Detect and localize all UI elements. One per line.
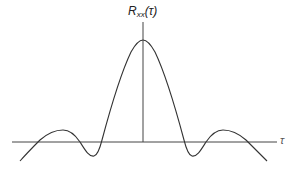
y-label-arg: (τ) [145, 4, 157, 18]
x-axis-label: τ [280, 134, 284, 146]
y-label-subscript: xx [137, 10, 145, 19]
y-axis-label: Rxx(τ) [128, 4, 157, 19]
autocorrelation-plot [0, 0, 304, 171]
y-label-main: R [128, 4, 137, 18]
